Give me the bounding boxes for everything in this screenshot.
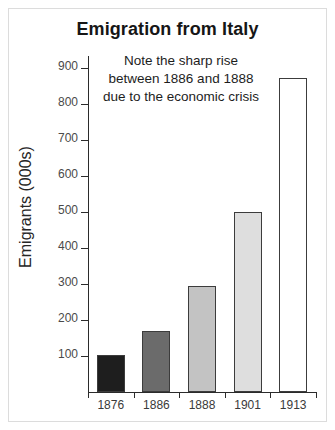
y-tick-label: 200 (58, 311, 78, 325)
y-tick-label: 800 (58, 95, 78, 109)
y-tick-label: 600 (58, 167, 78, 181)
bar-1886 (142, 331, 170, 392)
y-tick-mark (81, 212, 88, 213)
x-tick-mark (88, 392, 89, 398)
y-tick-mark (81, 68, 88, 69)
chart-annotation: Note the sharp risebetween 1886 and 1888… (92, 52, 270, 106)
y-tick-mark (81, 356, 88, 357)
y-tick-label: 400 (58, 239, 78, 253)
y-tick-label: 300 (58, 275, 78, 289)
x-tick-label-1876: 1876 (88, 398, 134, 412)
bar-1901 (234, 212, 262, 392)
y-axis-title: Emigrants (000s) (17, 97, 35, 317)
x-tick-label-1901: 1901 (225, 398, 271, 412)
chart-figure: Emigration from Italy Emigrants (000s) 1… (0, 0, 335, 430)
y-tick-mark (81, 176, 88, 177)
x-tick-label-1888: 1888 (179, 398, 225, 412)
bar-1888 (188, 286, 216, 392)
y-tick-label: 900 (58, 59, 78, 73)
y-tick-label: 700 (58, 131, 78, 145)
annotation-line-2: between 1886 and 1888 (92, 70, 270, 88)
annotation-line-1: Note the sharp rise (92, 52, 270, 70)
y-tick-mark (81, 248, 88, 249)
annotation-line-3: due to the economic crisis (92, 88, 270, 106)
plot-area (88, 57, 316, 392)
y-tick-mark (81, 104, 88, 105)
y-tick-mark (81, 140, 88, 141)
y-tick-mark (81, 320, 88, 321)
x-tick-label-1913: 1913 (270, 398, 316, 412)
x-tick-label-1886: 1886 (134, 398, 180, 412)
x-tick-mark (316, 392, 317, 398)
y-tick-label: 500 (58, 203, 78, 217)
y-tick-mark (81, 284, 88, 285)
y-tick-label: 100 (58, 347, 78, 361)
x-axis-line (88, 392, 316, 393)
bar-1913 (279, 78, 307, 392)
bar-1876 (97, 355, 125, 392)
chart-title: Emigration from Italy (0, 19, 335, 40)
